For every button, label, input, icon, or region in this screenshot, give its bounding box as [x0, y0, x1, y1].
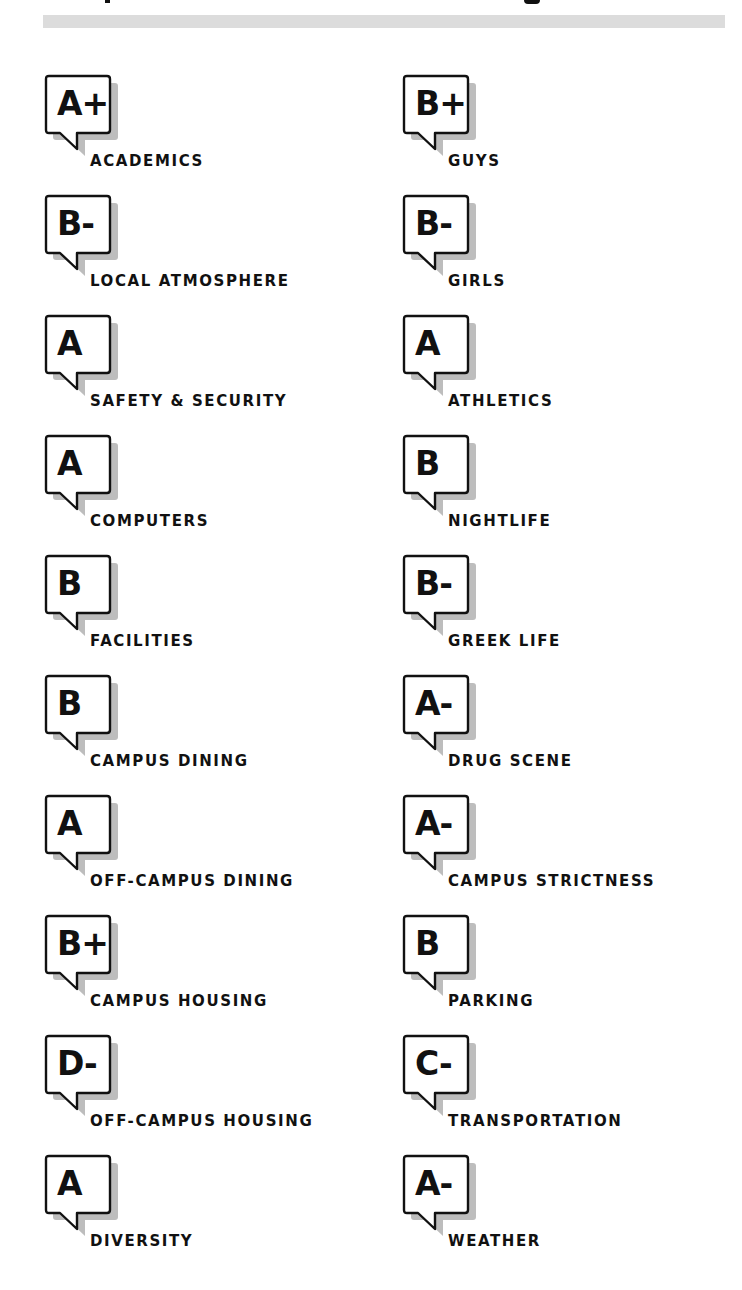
grade-value: A+	[48, 79, 111, 131]
speech-bubble-icon: A	[402, 315, 476, 391]
grade-value: A	[48, 799, 111, 851]
speech-bubble-icon: B	[44, 555, 118, 631]
category-label: NIGHTLIFE	[448, 512, 551, 530]
grade-value: B+	[48, 919, 111, 971]
category-label: ATHLETICS	[448, 392, 553, 410]
speech-bubble-icon: D-	[44, 1035, 118, 1111]
grade-item-right-4: B- GREEK LIFE	[402, 555, 732, 665]
category-label: SAFETY & SECURITY	[90, 392, 287, 410]
grade-item-right-0: B+ GUYS	[402, 75, 732, 185]
category-label: GIRLS	[448, 272, 506, 290]
speech-bubble-icon: C-	[402, 1035, 476, 1111]
grade-item-right-9: A- WEATHER	[402, 1155, 732, 1265]
category-label: ACADEMICS	[90, 152, 204, 170]
speech-bubble-icon: B-	[402, 195, 476, 271]
grade-item-left-6: A OFF-CAMPUS DINING	[44, 795, 374, 905]
grade-value: A-	[406, 799, 469, 851]
speech-bubble-icon: A-	[402, 1155, 476, 1231]
category-label: GUYS	[448, 152, 501, 170]
speech-bubble-icon: A-	[402, 675, 476, 751]
category-label: LOCAL ATMOSPHERE	[90, 272, 290, 290]
category-label: CAMPUS DINING	[90, 752, 249, 770]
grade-item-right-2: A ATHLETICS	[402, 315, 732, 425]
speech-bubble-icon: B+	[402, 75, 476, 151]
grade-value: B-	[406, 199, 469, 251]
grade-value: B	[48, 559, 111, 611]
grade-item-left-4: B FACILITIES	[44, 555, 374, 665]
grade-value: A-	[406, 679, 469, 731]
speech-bubble-icon: B-	[44, 195, 118, 271]
speech-bubble-icon: A	[44, 435, 118, 511]
category-label: PARKING	[448, 992, 534, 1010]
grade-value: A	[406, 319, 469, 371]
grade-value: A	[48, 439, 111, 491]
grade-item-left-2: A SAFETY & SECURITY	[44, 315, 374, 425]
speech-bubble-icon: B-	[402, 555, 476, 631]
category-label: CAMPUS HOUSING	[90, 992, 268, 1010]
grade-value: C-	[406, 1039, 469, 1091]
grade-item-left-7: B+ CAMPUS HOUSING	[44, 915, 374, 1025]
grade-item-right-8: C- TRANSPORTATION	[402, 1035, 732, 1145]
grade-item-right-1: B- GIRLS	[402, 195, 732, 305]
speech-bubble-icon: B	[402, 435, 476, 511]
cutoff-heading-descender	[105, 0, 110, 3]
category-label: DIVERSITY	[90, 1232, 193, 1250]
grade-value: B	[406, 919, 469, 971]
grade-item-left-0: A+ ACADEMICS	[44, 75, 374, 185]
grade-value: B	[406, 439, 469, 491]
grade-value: B-	[48, 199, 111, 251]
grade-value: A-	[406, 1159, 469, 1211]
grade-value: D-	[48, 1039, 111, 1091]
grade-item-left-3: A COMPUTERS	[44, 435, 374, 545]
grade-value: B+	[406, 79, 469, 131]
grade-value: A	[48, 1159, 111, 1211]
category-label: DRUG SCENE	[448, 752, 573, 770]
category-label: OFF-CAMPUS DINING	[90, 872, 294, 890]
grade-item-left-9: A DIVERSITY	[44, 1155, 374, 1265]
category-label: WEATHER	[448, 1232, 541, 1250]
speech-bubble-icon: B+	[44, 915, 118, 991]
category-label: GREEK LIFE	[448, 632, 561, 650]
grade-item-left-1: B- LOCAL ATMOSPHERE	[44, 195, 374, 305]
speech-bubble-icon: A+	[44, 75, 118, 151]
speech-bubble-icon: A	[44, 795, 118, 871]
grade-item-right-6: A- CAMPUS STRICTNESS	[402, 795, 732, 905]
grade-value: B-	[406, 559, 469, 611]
cutoff-heading-descender	[524, 0, 540, 4]
grade-item-right-7: B PARKING	[402, 915, 732, 1025]
category-label: COMPUTERS	[90, 512, 209, 530]
grade-value: A	[48, 319, 111, 371]
speech-bubble-icon: A	[44, 1155, 118, 1231]
speech-bubble-icon: B	[402, 915, 476, 991]
grade-item-left-8: D- OFF-CAMPUS HOUSING	[44, 1035, 374, 1145]
grade-item-left-5: B CAMPUS DINING	[44, 675, 374, 785]
grade-value: B	[48, 679, 111, 731]
category-label: TRANSPORTATION	[448, 1112, 622, 1130]
speech-bubble-icon: A	[44, 315, 118, 391]
grade-item-right-5: A- DRUG SCENE	[402, 675, 732, 785]
section-divider-bar	[43, 15, 725, 28]
grade-item-right-3: B NIGHTLIFE	[402, 435, 732, 545]
category-label: CAMPUS STRICTNESS	[448, 872, 655, 890]
category-label: OFF-CAMPUS HOUSING	[90, 1112, 313, 1130]
speech-bubble-icon: B	[44, 675, 118, 751]
speech-bubble-icon: A-	[402, 795, 476, 871]
category-label: FACILITIES	[90, 632, 195, 650]
